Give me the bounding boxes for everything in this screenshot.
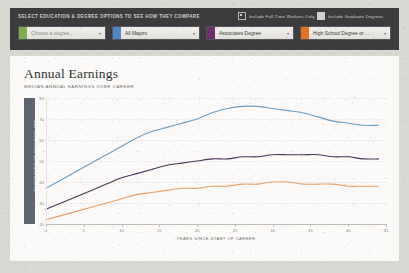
plot-canvas: 20304050607080 — [46, 98, 386, 224]
y-axis-tick-label: 40 — [39, 180, 44, 185]
series-line — [46, 182, 378, 220]
x-axis-tick-label: 5 — [83, 228, 85, 233]
degree-select-1-value: Choose a degree... — [27, 27, 95, 39]
x-axis-tick-mark — [84, 224, 85, 227]
checkbox-icon[interactable] — [238, 12, 246, 20]
panel-caption: SELECT EDUCATION & DEGREE OPTIONS TO SEE… — [18, 14, 200, 19]
degree-select-1[interactable]: Choose a degree... ▾ — [18, 26, 106, 40]
color-swatch-1 — [19, 27, 27, 39]
checkbox-include-full-time-workers-only[interactable]: Include Full-Time Workers Only — [238, 12, 315, 20]
x-axis-tick-mark — [386, 224, 387, 227]
chevron-down-icon[interactable]: ▾ — [283, 27, 293, 39]
x-axis-ticks: 051015202530354045 — [46, 224, 386, 236]
y-axis-tick-label: 70 — [39, 117, 44, 122]
x-axis-tick-mark — [46, 224, 47, 227]
degree-select-2-value: All Majors — [121, 27, 189, 39]
degree-select-2[interactable]: All Majors ▾ — [112, 26, 200, 40]
chevron-down-icon[interactable]: ▾ — [95, 27, 105, 39]
chart-subtitle: MEDIAN ANNUAL EARNINGS OVER CAREER — [24, 84, 134, 89]
y-axis-tick-label: 20 — [39, 222, 44, 227]
series-line — [46, 106, 378, 188]
checkbox-include-graduate-degrees[interactable]: Include Graduate Degrees — [317, 12, 383, 20]
series-line — [46, 155, 378, 210]
color-swatch-3 — [207, 27, 215, 39]
y-axis-label-bar: THOUSANDS OF 2014 DOLLARS — [24, 98, 35, 224]
checkbox-label: Include Full-Time Workers Only — [249, 14, 315, 19]
x-axis-tick-label: 20 — [195, 228, 200, 233]
color-swatch-4 — [301, 27, 309, 39]
page-title: Annual Earnings — [24, 66, 118, 82]
y-axis-line — [46, 98, 47, 224]
y-axis-tick-label: 50 — [39, 159, 44, 164]
checkbox-icon[interactable] — [317, 12, 325, 20]
x-axis-tick-label: 0 — [45, 228, 47, 233]
x-axis-tick-mark — [122, 224, 123, 227]
plot-area: THOUSANDS OF 2014 DOLLARS 20304050607080… — [24, 98, 386, 238]
x-axis-tick-label: 10 — [119, 228, 124, 233]
chevron-down-icon[interactable]: ▾ — [189, 27, 199, 39]
x-axis-tick-label: 30 — [270, 228, 275, 233]
checkbox-label: Include Graduate Degrees — [328, 14, 383, 19]
x-axis-tick-mark — [348, 224, 349, 227]
y-axis-tick-label: 80 — [39, 96, 44, 101]
x-axis-tick-mark — [235, 224, 236, 227]
x-axis-tick-mark — [197, 224, 198, 227]
y-axis-tick-label: 60 — [39, 138, 44, 143]
page-root: SELECT EDUCATION & DEGREE OPTIONS TO SEE… — [0, 0, 409, 273]
x-axis-tick-label: 40 — [346, 228, 351, 233]
data-lines — [46, 98, 386, 224]
x-axis-tick-label: 15 — [157, 228, 162, 233]
x-axis-tick-mark — [310, 224, 311, 227]
y-axis-label: THOUSANDS OF 2014 DOLLARS — [33, 111, 38, 201]
x-axis-tick-label: 45 — [384, 228, 389, 233]
degree-select-3-value: Associates Degree — [215, 27, 283, 39]
x-axis-tick-mark — [273, 224, 274, 227]
degree-select-4-value: High School Degree or ... — [309, 27, 380, 39]
chart-card: Annual Earnings MEDIAN ANNUAL EARNINGS O… — [10, 56, 399, 261]
chevron-down-icon[interactable]: ▾ — [380, 27, 390, 39]
x-axis-label: YEARS SINCE START OF CAREER — [46, 236, 386, 241]
degree-select-4[interactable]: High School Degree or ... ▾ — [300, 26, 391, 40]
control-panel: SELECT EDUCATION & DEGREE OPTIONS TO SEE… — [10, 8, 399, 50]
x-axis-tick-label: 25 — [232, 228, 237, 233]
x-axis-tick-label: 35 — [308, 228, 313, 233]
x-axis-tick-mark — [159, 224, 160, 227]
degree-select-3[interactable]: Associates Degree ▾ — [206, 26, 294, 40]
color-swatch-2 — [113, 27, 121, 39]
y-axis-tick-label: 30 — [39, 201, 44, 206]
